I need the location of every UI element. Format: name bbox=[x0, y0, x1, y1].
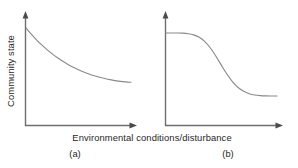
panel-b-y-axis-arrowhead bbox=[163, 11, 169, 19]
x-axis-label: Environmental conditions/disturbance bbox=[72, 132, 231, 143]
figure-container: Community state Environmental conditions… bbox=[0, 0, 298, 168]
panel-a-label: (a) bbox=[69, 148, 80, 159]
panel-a-x-axis-arrowhead bbox=[130, 123, 138, 129]
two-panel-line-chart: Community state Environmental conditions… bbox=[0, 0, 298, 168]
y-axis-label: Community state bbox=[5, 35, 16, 107]
panel-b bbox=[163, 11, 283, 128]
panel-b-curve bbox=[166, 33, 277, 96]
panel-b-label: (b) bbox=[222, 148, 233, 159]
panel-a bbox=[23, 11, 137, 128]
panel-a-y-axis-arrowhead bbox=[23, 11, 29, 19]
panel-a-curve bbox=[26, 28, 131, 82]
panel-b-x-axis-arrowhead bbox=[276, 123, 284, 129]
